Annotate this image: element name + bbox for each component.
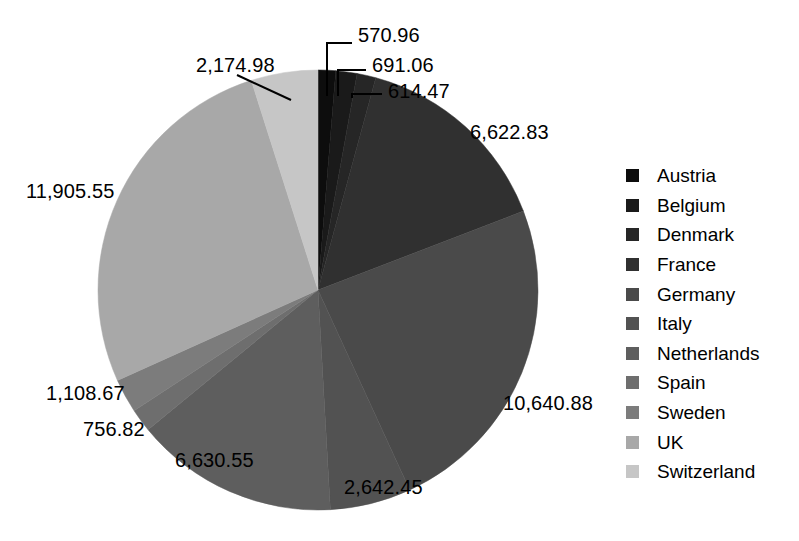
legend-item-germany[interactable]: Germany	[626, 279, 796, 309]
slice-value-austria: 570.96	[358, 24, 420, 47]
legend-item-austria[interactable]: Austria	[626, 161, 796, 191]
slice-value-denmark: 614.47	[388, 80, 450, 103]
legend-item-label: UK	[657, 433, 683, 452]
legend-swatch-icon	[626, 436, 639, 449]
legend-item-label: Switzerland	[657, 462, 755, 481]
legend-item-label: Denmark	[657, 225, 734, 244]
legend-item-sweden[interactable]: Sweden	[626, 398, 796, 428]
legend-item-netherlands[interactable]: Netherlands	[626, 339, 796, 369]
legend-item-belgium[interactable]: Belgium	[626, 191, 796, 221]
slice-value-spain: 756.82	[83, 418, 145, 441]
slice-value-belgium: 691.06	[372, 54, 434, 77]
legend-item-denmark[interactable]: Denmark	[626, 220, 796, 250]
legend-item-label: Germany	[657, 285, 735, 304]
legend-swatch-icon	[626, 288, 639, 301]
pie-chart: Austria: 570.96Belgium: 691.06Denmark: 6…	[0, 0, 799, 541]
legend-swatch-icon	[626, 228, 639, 241]
slice-value-france: 6,622.83	[470, 121, 549, 144]
legend-swatch-icon	[626, 169, 639, 182]
legend-item-italy[interactable]: Italy	[626, 309, 796, 339]
legend-swatch-icon	[626, 258, 639, 271]
legend-item-label: Netherlands	[657, 344, 759, 363]
slice-value-italy: 2,642.45	[344, 476, 423, 499]
slice-value-netherlands: 6,630.55	[175, 449, 254, 472]
legend-swatch-icon	[626, 406, 639, 419]
legend-item-france[interactable]: France	[626, 250, 796, 280]
legend-item-label: France	[657, 255, 716, 274]
slice-value-sweden: 1,108.67	[46, 382, 125, 405]
slice-value-germany: 10,640.88	[503, 392, 593, 415]
legend-item-label: Italy	[657, 314, 692, 333]
legend-swatch-icon	[626, 347, 639, 360]
legend-swatch-icon	[626, 465, 639, 478]
slice-value-uk: 11,905.55	[26, 180, 114, 203]
legend-item-spain[interactable]: Spain	[626, 368, 796, 398]
legend-item-switzerland[interactable]: Switzerland	[626, 457, 796, 487]
legend-item-label: Austria	[657, 166, 716, 185]
legend-item-label: Belgium	[657, 196, 726, 215]
legend-item-label: Spain	[657, 373, 706, 392]
legend-item-label: Sweden	[657, 403, 726, 422]
legend-item-uk[interactable]: UK	[626, 427, 796, 457]
chart-legend: AustriaBelgiumDenmarkFranceGermanyItalyN…	[626, 161, 796, 487]
legend-swatch-icon	[626, 376, 639, 389]
slice-value-switzerland: 2,174.98	[196, 54, 275, 77]
legend-swatch-icon	[626, 317, 639, 330]
legend-swatch-icon	[626, 199, 639, 212]
